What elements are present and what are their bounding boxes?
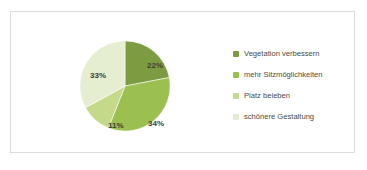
legend-swatch-icon xyxy=(233,51,239,57)
legend-item-label: Platz beleben xyxy=(244,92,290,100)
pie-slice-label-vegetation-verbessern: 22% xyxy=(147,62,163,70)
pie-slice-label-platz-beleben: 11% xyxy=(108,122,124,130)
pie-slice-group xyxy=(80,41,170,131)
legend-item-schoenere-gestaltung[interactable]: schönere Gestaltung xyxy=(233,109,353,125)
legend-swatch-icon xyxy=(233,114,239,120)
legend-item-mehr-sitzmoeglichkeiten[interactable]: mehr Sitzmöglichkeiten xyxy=(233,67,353,83)
legend-item-platz-beleben[interactable]: Platz beleben xyxy=(233,88,353,104)
screenshot-root: 22% 34% 11% 33% Vegetation verbessern me… xyxy=(0,0,367,170)
chart-legend: Vegetation verbessern mehr Sitzmöglichke… xyxy=(233,46,353,130)
pie-slice-label-mehr-sitzmoeglichkeiten: 34% xyxy=(148,120,164,128)
pie-slice-label-schoenere-gestaltung: 33% xyxy=(90,72,106,80)
legend-item-label: schönere Gestaltung xyxy=(244,113,314,121)
pie-chart-plot-area: 22% 34% 11% 33% Vegetation verbessern me… xyxy=(11,12,356,154)
legend-item-label: Vegetation verbessern xyxy=(244,50,320,58)
chart-frame: 22% 34% 11% 33% Vegetation verbessern me… xyxy=(10,11,355,153)
legend-swatch-icon xyxy=(233,72,239,78)
legend-item-label: mehr Sitzmöglichkeiten xyxy=(244,71,323,79)
legend-swatch-icon xyxy=(233,93,239,99)
legend-item-vegetation-verbessern[interactable]: Vegetation verbessern xyxy=(233,46,353,62)
